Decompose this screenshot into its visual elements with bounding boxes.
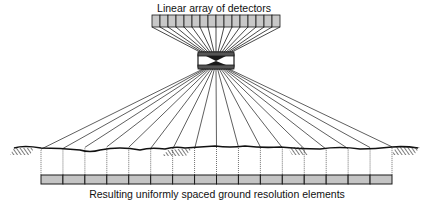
ground-resolution-cell xyxy=(41,175,63,184)
detector-cell xyxy=(264,15,272,27)
ground-resolution-cell xyxy=(282,175,304,184)
ground-resolution-cell xyxy=(260,175,282,184)
detector-cell xyxy=(208,15,216,27)
detector-cell xyxy=(160,15,168,27)
hatch-right xyxy=(392,147,420,155)
detector-cell xyxy=(168,15,176,27)
detector-cell xyxy=(216,15,224,27)
detector-cell xyxy=(184,15,192,27)
lens-icon xyxy=(198,52,234,69)
ground-resolution-cell xyxy=(63,175,85,184)
detector-cell xyxy=(192,15,200,27)
ground-resolution-cell xyxy=(370,175,392,184)
ground-elements-caption: Resulting uniformly spaced ground resolu… xyxy=(0,188,428,200)
ground-surface xyxy=(10,146,420,156)
ground-resolution-cell xyxy=(173,175,195,184)
ground-resolution-cell xyxy=(304,175,326,184)
detector-cell xyxy=(272,15,280,27)
detector-cell xyxy=(176,15,184,27)
detector-array-label: Linear array of detectors xyxy=(0,2,428,14)
detector-cell xyxy=(152,15,160,27)
detector-cell xyxy=(240,15,248,27)
detector-cell xyxy=(232,15,240,27)
lower-rays xyxy=(41,69,392,149)
detector-cell xyxy=(224,15,232,27)
detector-cell xyxy=(248,15,256,27)
detector-cell xyxy=(256,15,264,27)
hatch-left xyxy=(10,148,34,155)
ground-resolution-cell xyxy=(129,175,151,184)
upper-rays xyxy=(152,27,280,52)
ground-resolution-cell xyxy=(238,175,260,184)
ground-resolution-cell xyxy=(107,175,129,184)
ground-resolution-cell xyxy=(217,175,239,184)
ground-resolution-cell xyxy=(326,175,348,184)
pushbroom-scanner-diagram xyxy=(0,0,428,203)
detector-cell xyxy=(200,15,208,27)
ground-resolution-cell xyxy=(348,175,370,184)
detector-array xyxy=(152,15,280,27)
ground-resolution-elements xyxy=(41,175,392,184)
ground-resolution-cell xyxy=(85,175,107,184)
ground-resolution-cell xyxy=(195,175,217,184)
ground-resolution-cell xyxy=(151,175,173,184)
